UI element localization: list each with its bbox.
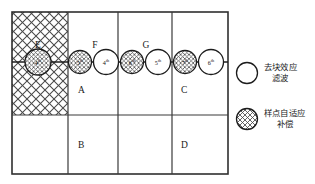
node-n1: 4th xyxy=(25,49,51,75)
cell-label-b: B xyxy=(78,140,84,150)
legend-deblocking-line1: 去块效应 xyxy=(264,62,297,72)
legend-deblocking-line2: 滤波 xyxy=(272,73,289,83)
cell-label-d: D xyxy=(181,140,188,150)
node-n7: 6th xyxy=(199,50,224,75)
partition-diagram: 4th 5th 4th 6th 5th 7th 6t xyxy=(0,0,315,184)
legend-sao-line1: 样点自适应 xyxy=(264,108,305,118)
node-n4: 6th xyxy=(121,51,144,74)
node-n5: 5th xyxy=(146,50,171,75)
edge-label-f: F xyxy=(92,40,97,50)
diagram-container: 4th 5th 4th 6th 5th 7th 6t xyxy=(0,0,315,184)
legend-hatched-circle-icon xyxy=(237,109,258,130)
node-n2: 5th xyxy=(69,51,92,74)
node-n6: 7th xyxy=(174,51,197,74)
node-n3: 4th xyxy=(94,50,119,75)
legend-item-sao: 样点自适应 补偿 xyxy=(237,108,306,130)
region-label-e: E xyxy=(35,40,41,50)
legend-sao-line2: 补偿 xyxy=(277,119,294,129)
legend: 去块效应 滤波 样点自适应 补偿 xyxy=(237,62,306,130)
cell-label-a: A xyxy=(78,85,85,95)
legend-plain-circle-icon xyxy=(237,63,258,84)
cell-label-c: C xyxy=(181,85,187,95)
legend-item-deblocking: 去块效应 滤波 xyxy=(237,62,297,84)
edge-label-g: G xyxy=(143,40,150,50)
